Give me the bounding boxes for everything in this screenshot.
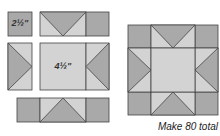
left-flying-geese (8, 43, 32, 90)
bottom-right-square (86, 98, 109, 122)
bottom-flying-geese (40, 98, 86, 122)
top-right-square (86, 12, 109, 36)
assembled-star-block (128, 25, 218, 115)
top-flying-geese (40, 12, 86, 36)
caption: Make 80 total (158, 121, 218, 132)
right-flying-geese (86, 43, 109, 90)
center-square-label: 4½" (40, 61, 86, 71)
small-square-label: 2½" (8, 18, 32, 28)
bottom-left-square (17, 98, 40, 122)
quilt-diagram (0, 0, 220, 136)
